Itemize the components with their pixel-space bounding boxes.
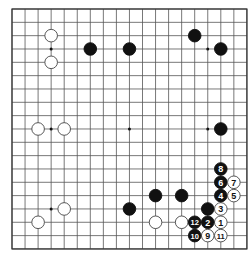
star-point [50,127,53,130]
move-number-label: 7 [231,178,236,188]
black-stone: 4 [215,189,228,202]
white-stone: 3 [215,203,228,216]
go-board[interactable]: 123456789101112 [0,0,252,260]
star-point [206,47,209,50]
move-number-label: 3 [218,204,223,214]
move-number-label: 8 [218,164,223,174]
white-stone-disc [149,216,162,229]
white-stone-disc [45,29,58,42]
move-number-label: 12 [191,218,199,227]
black-stone-disc [123,203,136,216]
move-number-label: 10 [191,232,199,241]
white-stone: 1 [215,216,228,229]
go-board-canvas[interactable]: 123456789101112 [0,0,252,260]
move-number-label: 1 [218,218,223,228]
black-stone: 6 [215,176,228,189]
white-stone [45,29,58,42]
star-point [128,127,131,130]
black-stone [215,123,228,136]
move-number-label: 5 [231,191,236,201]
white-stone-disc [58,123,71,136]
white-stone-disc [58,203,71,216]
black-stone-disc [215,43,228,56]
white-stone [175,216,188,229]
move-number-label: 6 [218,178,223,188]
black-stone-disc [123,43,136,56]
white-stone-disc [175,216,188,229]
move-number-label: 4 [218,191,223,201]
black-stone: 2 [201,216,214,229]
black-stone-disc [84,43,97,56]
black-stone-disc [175,189,188,202]
black-stone: 10 [188,229,201,242]
black-stone [175,189,188,202]
black-stone [123,203,136,216]
white-stone [32,123,45,136]
move-number-label: 9 [205,231,210,241]
star-point [50,207,53,210]
black-stone [123,43,136,56]
white-stone: 9 [201,229,214,242]
white-stone: 11 [215,229,228,242]
move-number-label: 2 [205,218,210,228]
black-stone-disc [188,29,201,42]
white-stone-disc [32,216,45,229]
white-stone: 7 [228,176,241,189]
black-stone: 12 [188,216,201,229]
black-stone [201,203,214,216]
white-stone [45,56,58,69]
white-stone [32,216,45,229]
white-stone-disc [45,56,58,69]
black-stone-disc [201,203,214,216]
star-point [206,127,209,130]
white-stone: 5 [228,189,241,202]
star-point [50,47,53,50]
black-stone: 8 [215,163,228,176]
white-stone-disc [32,123,45,136]
white-stone [58,123,71,136]
white-stone [58,203,71,216]
black-stone [84,43,97,56]
black-stone-disc [215,123,228,136]
white-stone [149,216,162,229]
black-stone-disc [149,189,162,202]
black-stone [149,189,162,202]
move-number-label: 11 [217,232,225,241]
black-stone [215,43,228,56]
black-stone [188,29,201,42]
